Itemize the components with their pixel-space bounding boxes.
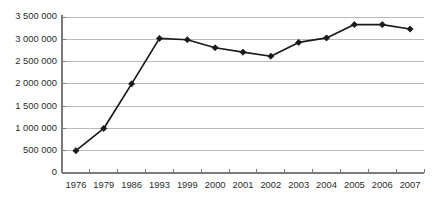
- y-axis-tick-label: 2 000 000: [15, 77, 57, 88]
- data-point-marker: [240, 49, 246, 55]
- line-chart-figure: 0500 0001 000 0001 500 0002 000 0002 500…: [0, 0, 434, 205]
- data-point-marker: [407, 26, 413, 32]
- x-axis-tick-label: 2005: [344, 179, 365, 190]
- x-axis-tick-label: 1986: [121, 179, 142, 190]
- y-axis-tick-label: 1 000 000: [15, 122, 57, 133]
- x-axis-tick-label: 2001: [233, 179, 254, 190]
- data-point-marker: [351, 21, 357, 27]
- x-axis-tick-label: 1999: [177, 179, 198, 190]
- y-axis-tick-label: 1 500 000: [15, 100, 57, 111]
- x-axis-tick-label: 1979: [93, 179, 114, 190]
- x-axis-tick-label: 2006: [372, 179, 393, 190]
- y-axis-tick-label: 0: [52, 166, 57, 177]
- x-axis-tick-label: 2003: [288, 179, 309, 190]
- data-point-marker: [296, 39, 302, 45]
- data-point-marker: [379, 21, 385, 27]
- x-axis-tick-label: 1993: [149, 179, 170, 190]
- x-axis-tick-label: 2007: [400, 179, 421, 190]
- data-point-markers: [73, 21, 413, 153]
- x-axis-tick-labels: 1976197919861993199920002001200220032004…: [65, 179, 420, 190]
- data-point-marker: [212, 45, 218, 51]
- series-line: [76, 25, 410, 151]
- gridlines: [62, 17, 424, 151]
- y-axis-tick-label: 3 500 000: [15, 10, 57, 21]
- data-point-marker: [268, 53, 274, 59]
- x-axis-tick-label: 2000: [205, 179, 226, 190]
- y-axis-tick-label: 500 000: [23, 144, 57, 155]
- y-axis-tick-labels: 0500 0001 000 0001 500 0002 000 0002 500…: [15, 10, 57, 177]
- x-axis-tick-label: 1976: [65, 179, 86, 190]
- x-axis-tick-label: 2004: [316, 179, 337, 190]
- y-axis-tick-label: 3 000 000: [15, 33, 57, 44]
- axis-tick-marks: [62, 17, 424, 173]
- chart-canvas: 0500 0001 000 0001 500 0002 000 0002 500…: [0, 0, 434, 205]
- y-axis-tick-label: 2 500 000: [15, 55, 57, 66]
- data-point-marker: [323, 35, 329, 41]
- data-series: [76, 25, 410, 151]
- data-point-marker: [184, 37, 190, 43]
- x-axis-tick-label: 2002: [260, 179, 281, 190]
- axes: [62, 15, 424, 173]
